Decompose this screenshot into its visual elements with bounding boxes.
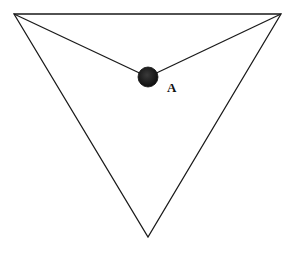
diagram-canvas: A — [0, 0, 294, 253]
segment-left-vertex-to-a — [14, 14, 148, 77]
segment-right-vertex-to-a — [148, 14, 281, 77]
point-a-marker — [138, 67, 158, 87]
inverted-triangle — [14, 14, 281, 237]
point-a-label: A — [167, 80, 177, 95]
